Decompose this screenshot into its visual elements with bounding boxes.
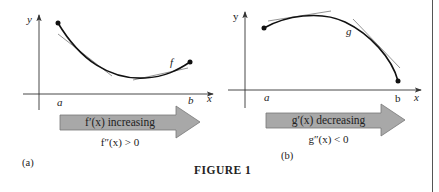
interval-start-label-a: a [57, 97, 63, 108]
arrow-text-a: f′(x) increasing [60, 117, 180, 129]
interval-end-label-b: b [395, 93, 401, 104]
y-axis-label-b: y [233, 11, 239, 22]
y-axis-label-a: y [27, 14, 32, 25]
curve-f [58, 23, 190, 78]
endpoint-b-end [396, 79, 401, 84]
curve-g [264, 15, 398, 81]
function-label-g: g [346, 26, 352, 37]
endpoint-b-start [262, 26, 267, 31]
tangent-line-b2 [353, 19, 400, 68]
function-label-f: f [170, 57, 173, 68]
panel-label-b: (b) [281, 151, 293, 162]
endpoint-a-end [188, 60, 193, 65]
figure-caption: FIGURE 1 [194, 165, 251, 177]
page-margin-rule [432, 0, 433, 192]
interval-end-label-a: b [188, 95, 194, 106]
arrow-text-b: g′(x) decreasing [266, 115, 391, 127]
endpoint-a-start [56, 21, 61, 26]
condition-a: f″(x) > 0 [60, 137, 180, 148]
x-axis-label-b: x [414, 92, 419, 103]
panel-label-a: (a) [22, 158, 34, 169]
interval-start-label-b: a [264, 92, 270, 103]
x-axis-label-a: x [207, 93, 212, 104]
condition-b: g″(x) < 0 [266, 134, 391, 145]
